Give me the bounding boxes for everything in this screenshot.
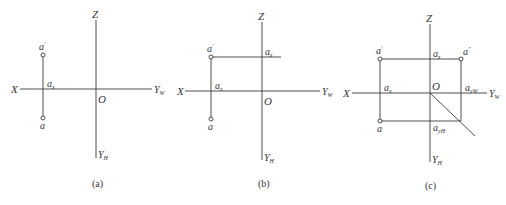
label-ax: ax [47,78,55,90]
label-origin: O [264,95,272,107]
point-a-double-prime [459,57,463,61]
label-a: a [208,121,213,132]
panel-b: Z X O YW YH a' az ax a (b) [176,10,334,190]
label-yh: YH [264,152,275,164]
label-ax: ax [215,80,223,92]
label-origin: O [432,80,440,92]
label-ayw: ayW [465,82,479,94]
label-a-prime: a' [376,45,383,56]
label-x: X [176,85,185,97]
caption-a: (a) [92,178,103,190]
caption-b: (b) [258,178,270,190]
label-a: a [40,120,45,131]
panel-a: Z X O YW YH a' ax a (a) [10,8,166,190]
caption-c: (c) [425,180,436,192]
label-a: a [377,123,382,134]
label-a-prime: a' [207,43,214,54]
label-yw: YW [154,84,166,96]
point-a-prime [209,55,213,59]
label-origin: O [98,93,106,105]
label-z: Z [426,12,433,24]
point-a-prime [378,57,382,61]
label-z: Z [258,10,265,22]
label-yh: YH [432,154,443,166]
label-a-prime: a' [39,41,46,52]
label-a-double-prime: a'' [463,46,471,57]
label-ayh: ayH [433,122,446,134]
label-ax: ax [384,82,392,94]
label-az: az [433,48,441,60]
three-view-projection-figure: Z X O YW YH a' ax a (a) Z X O YW YH a' a… [0,0,506,205]
label-yw: YW [322,86,334,98]
panel-c: Z X O YW YH a' az a'' ax ayW ayH a (c) [342,12,501,192]
label-z: Z [92,8,99,20]
label-x: X [342,87,351,99]
label-az: az [265,46,273,58]
point-a-prime [41,53,45,57]
label-yh: YH [98,149,109,161]
label-yw: YW [489,88,501,100]
label-x: X [10,83,19,95]
